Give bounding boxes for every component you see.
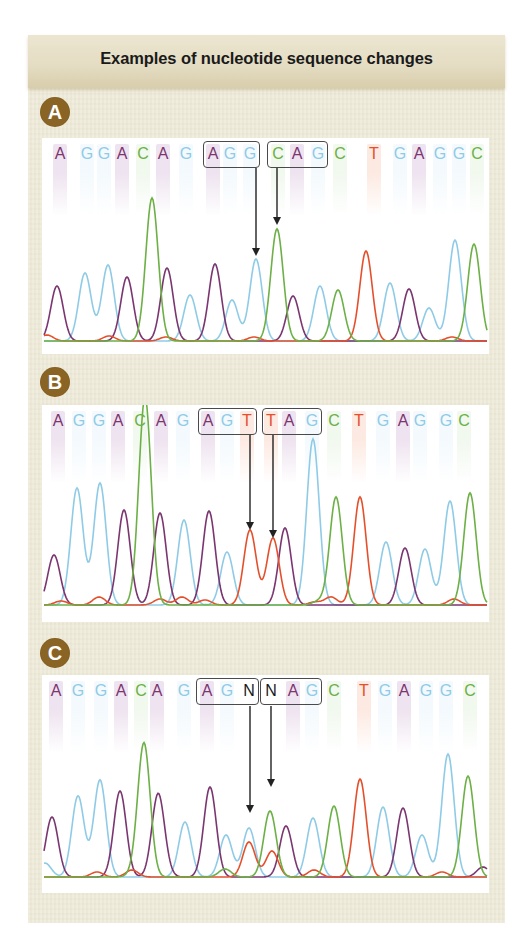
panel-badge-a: A <box>40 97 70 127</box>
trace-t <box>44 497 487 605</box>
arrow-icon <box>246 706 254 813</box>
figure-panel: Examples of nucleotide sequence changes … <box>28 35 505 923</box>
trace-g <box>44 754 487 877</box>
trace-g <box>44 439 487 605</box>
panel-badge-c: C <box>40 638 70 668</box>
chromatogram-b: AGGACAGAGTTAGCTGAGGC <box>42 405 489 622</box>
arrow-icon <box>267 706 275 787</box>
trace-plot <box>42 405 489 622</box>
arrow-icon <box>269 435 277 538</box>
figure-title: Examples of nucleotide sequence changes <box>28 49 505 68</box>
chromatogram-a: AGGACAGAGGCAGCTGAGGC <box>42 138 489 354</box>
trace-a <box>44 787 487 877</box>
panel-badge-b: B <box>40 367 70 397</box>
chromatogram-c: AGGACAGAGNNAGCTGAGGC <box>42 675 489 893</box>
trace-g <box>44 240 487 341</box>
title-bar: Examples of nucleotide sequence changes <box>28 35 505 88</box>
arrow-icon <box>273 168 281 225</box>
trace-plot <box>42 138 489 354</box>
arrow-icon <box>246 435 254 530</box>
trace-a <box>44 510 487 605</box>
trace-plot <box>42 675 489 893</box>
trace-a <box>44 264 487 341</box>
arrow-icon <box>252 168 260 256</box>
